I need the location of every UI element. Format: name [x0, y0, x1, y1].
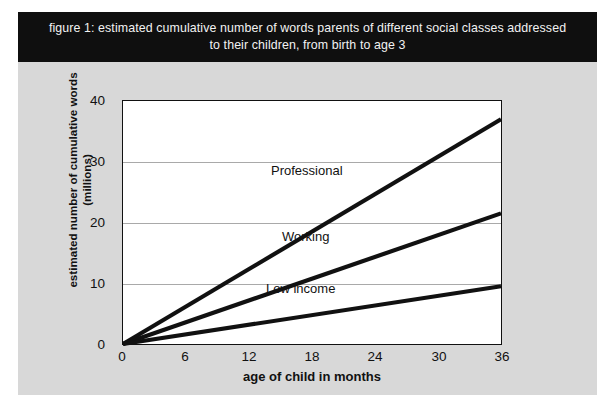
y-tick-label-30: 30 [65, 154, 105, 169]
figure-title: figure 1: estimated cumulative number of… [44, 20, 571, 54]
x-tick-label-0: 0 [102, 349, 142, 364]
x-tick-label-36: 36 [482, 349, 522, 364]
y-tick-label-20: 20 [65, 215, 105, 230]
y-tick-label-40: 40 [65, 93, 105, 108]
x-axis-title: age of child in months [122, 369, 502, 384]
x-tick-label-30: 30 [419, 349, 459, 364]
x-tick-label-12: 12 [229, 349, 269, 364]
chart-area: estimated number of cumulative words (mi… [18, 62, 597, 395]
series-label-low-income: Low income [266, 281, 335, 296]
y-tick-label-0: 0 [65, 337, 105, 352]
series-lines [123, 101, 501, 344]
figure-title-banner: figure 1: estimated cumulative number of… [18, 12, 597, 62]
plot-box: Professional Working Low income [122, 100, 502, 345]
x-tick-label-6: 6 [165, 349, 205, 364]
series-label-working: Working [282, 229, 329, 244]
x-tick-label-18: 18 [292, 349, 332, 364]
y-tick-label-10: 10 [65, 276, 105, 291]
figure-card: figure 1: estimated cumulative number of… [18, 12, 597, 395]
x-tick-label-24: 24 [355, 349, 395, 364]
series-label-professional: Professional [271, 163, 343, 178]
